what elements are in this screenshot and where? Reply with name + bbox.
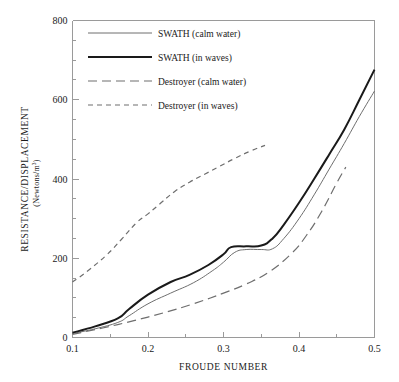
y-tick-label: 400 [53,174,68,185]
x-axis-title: FROUDE NUMBER [179,362,268,372]
x-tick-label: 0.4 [293,343,306,354]
y-tick-label: 0 [63,332,68,343]
y-axis-units: (Newtons/m3) [31,159,41,207]
chart-legend: SWATH (calm water)SWATH (in waves)Destro… [88,29,246,112]
x-tick-label: 0.2 [142,343,155,354]
series-line-0 [73,91,375,334]
series-line-3 [73,145,266,282]
x-tick-label: 0.3 [217,343,230,354]
x-tick-label: 0.1 [66,343,79,354]
y-axis-title: RESISTANCE/DISPLACEMENT [20,106,30,252]
y-tick-label: 200 [53,253,68,264]
x-tick-label: 0.5 [368,343,381,354]
legend-label-3: Destroyer (in waves) [158,101,238,112]
chart-canvas: 02004006008000.10.20.30.40.5FROUDE NUMBE… [0,0,399,382]
resistance-displacement-chart: 02004006008000.10.20.30.40.5FROUDE NUMBE… [0,0,399,382]
plot-frame [73,21,375,338]
legend-label-0: SWATH (calm water) [158,29,240,40]
axes [73,21,375,338]
y-tick-label: 600 [53,94,68,105]
legend-label-1: SWATH (in waves) [158,53,232,64]
y-tick-label: 800 [53,15,68,26]
legend-label-2: Destroyer (calm water) [158,77,246,88]
